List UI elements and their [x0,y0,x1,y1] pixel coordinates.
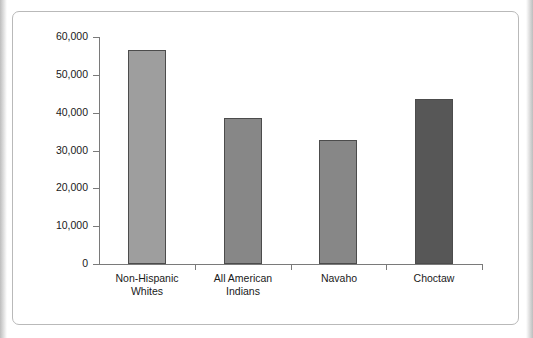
bar [415,99,453,264]
x-axis-tick [195,264,196,270]
x-axis-tick [386,264,387,270]
y-axis-tick [93,264,99,265]
x-axis-category-label: Choctaw [386,272,482,285]
y-axis-line [99,37,100,265]
x-axis-tick [291,264,292,270]
y-axis-tick-label: 40,000 [32,107,88,118]
y-axis-tick [93,113,99,114]
y-axis-tick-label-wrap: 0 [30,264,88,265]
y-axis-tick-label-wrap: 40,000 [30,113,88,114]
bar [319,140,357,264]
y-axis-tick-label-wrap: 20,000 [30,188,88,189]
y-axis-tick [93,188,99,189]
x-axis-category-label: Navaho [291,272,387,285]
y-axis-tick-label: 0 [32,258,88,269]
bar-chart-plot-area: 010,00020,00030,00040,00050,00060,000Non… [0,0,533,338]
y-axis-tick-label: 60,000 [32,31,88,42]
figure-root: 010,00020,00030,00040,00050,00060,000Non… [0,0,533,338]
y-axis-tick-label-wrap: 10,000 [30,226,88,227]
y-axis-tick-label: 50,000 [32,69,88,80]
y-axis-tick-label: 20,000 [32,182,88,193]
y-axis-tick-label-wrap: 50,000 [30,75,88,76]
y-axis-tick-label: 30,000 [32,145,88,156]
x-axis-category-label: Non-Hispanic Whites [99,272,195,297]
x-axis-tick [482,264,483,270]
y-axis-tick-label: 10,000 [32,220,88,231]
y-axis-tick-label-wrap: 60,000 [30,37,88,38]
y-axis-tick [93,151,99,152]
y-axis-tick-label-wrap: 30,000 [30,151,88,152]
y-axis-tick [93,37,99,38]
x-axis-category-label: All American Indians [195,272,291,297]
bar [128,50,166,264]
y-axis-tick [93,226,99,227]
bar [224,118,262,264]
y-axis-tick [93,75,99,76]
